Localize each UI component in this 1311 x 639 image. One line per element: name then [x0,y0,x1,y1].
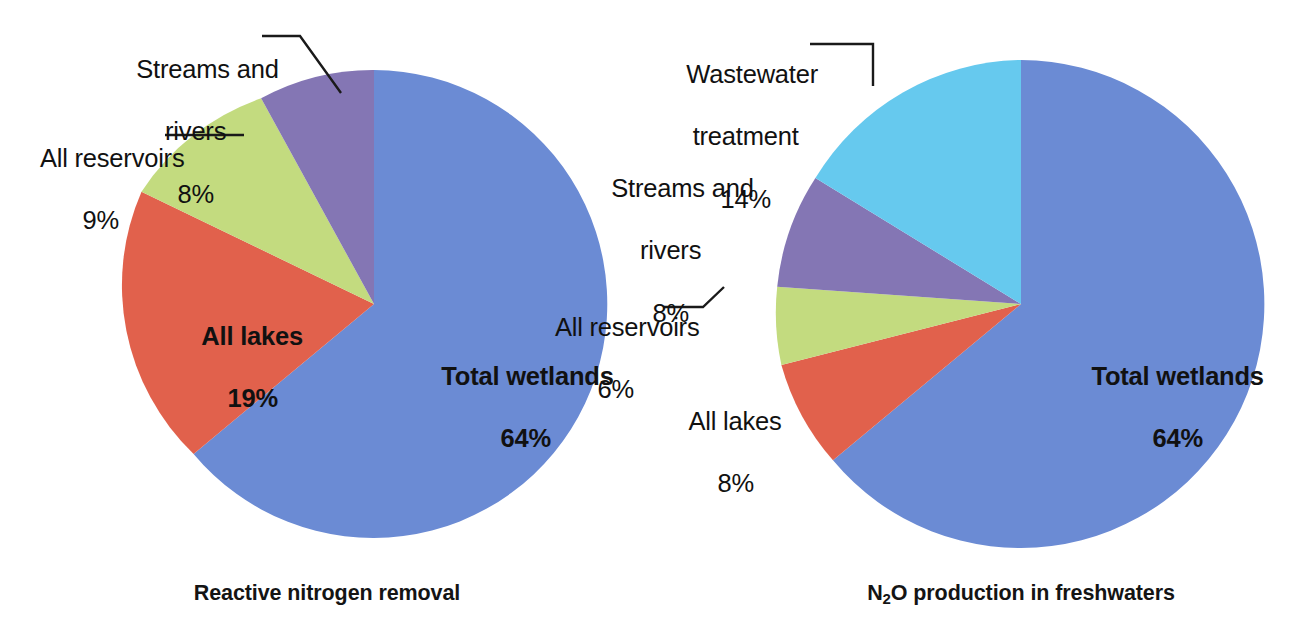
slice-label-streams-and-rivers-value: 8% [177,180,213,208]
chart-caption-right-prefix: N [867,581,882,605]
chart-caption-right-subscript: 2 [883,590,891,607]
slice-label-all-lakes-value: 19% [227,384,277,412]
chart-caption-right: N2O production in freshwaters [811,552,1231,608]
slice-label-wastewater-treatment-name-line2: treatment [693,122,799,150]
slice-label-all-lakes: All lakes 19% [152,290,312,446]
slice-label-streams-and-rivers-value: 8% [652,299,688,327]
chart-caption-left: Reactive nitrogen removal by aquatic sys… [137,552,517,639]
slice-label-total-wetlands-name: Total wetlands [1091,362,1263,390]
slice-label-streams-and-rivers-name-line2: rivers [165,117,226,145]
slice-label-total-wetlands-value: 64% [1152,424,1202,452]
slice-label-wastewater-treatment: Wastewater treatment 14% [645,28,805,246]
slice-label-wastewater-treatment-name-line1: Wastewater [686,60,818,88]
slice-label-wastewater-treatment-value: 14% [720,185,770,213]
slice-label-all-lakes-name: All lakes [201,322,303,350]
slice-label-total-wetlands: Total wetlands 64% [1047,330,1267,486]
slice-label-all-lakes-value: 8% [717,469,753,497]
leader-line-wastewater-treatment [810,44,873,86]
slice-label-all-lakes-name: All lakes [688,407,781,435]
chart-panel-right: Total wetlands 64% All lakes 8% All rese… [655,0,1311,639]
chart-caption-right-suffix: O production in freshwaters [891,581,1175,605]
slice-label-streams-and-rivers-name-line1: Streams and [136,55,278,83]
figure-canvas: Total wetlands 64% All lakes 19% All res… [0,0,1311,639]
slice-label-streams-and-rivers: Streams and rivers 8% [95,23,255,241]
chart-caption-left-line1: Reactive nitrogen removal [194,581,460,605]
slice-label-all-reservoirs-value: 6% [597,375,633,403]
